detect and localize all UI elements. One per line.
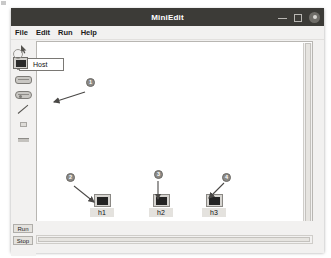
scrollbar-thumb[interactable] bbox=[305, 43, 311, 239]
node-h1[interactable]: h1 bbox=[90, 194, 114, 217]
annotation-badge-3: 3 bbox=[154, 170, 163, 179]
scrollbar-thumb[interactable] bbox=[38, 237, 310, 242]
switch-tool[interactable] bbox=[13, 73, 34, 86]
node-label: h1 bbox=[90, 208, 114, 217]
node-label: h3 bbox=[202, 208, 226, 217]
menu-item-edit[interactable]: Edit bbox=[35, 26, 51, 39]
host-monitor-icon bbox=[206, 194, 223, 207]
annotation-badge-2: 2 bbox=[66, 173, 75, 182]
node-label: h2 bbox=[149, 208, 173, 217]
node-h3[interactable]: h3 bbox=[202, 194, 226, 217]
legacy-router-tool[interactable] bbox=[13, 118, 34, 131]
window-title: MiniEdit bbox=[151, 13, 184, 22]
menu-item-run[interactable]: Run bbox=[57, 26, 74, 39]
host-monitor-icon bbox=[13, 57, 28, 69]
window-titlebar[interactable]: MiniEdit bbox=[11, 8, 324, 26]
node-h2[interactable]: h2 bbox=[149, 194, 173, 217]
menubar: File Edit Run Help bbox=[11, 26, 324, 40]
switch-pill-icon bbox=[15, 76, 32, 84]
host-monitor-icon bbox=[94, 194, 111, 207]
bottom-bar: Run Stop bbox=[11, 221, 324, 252]
net-link-tool[interactable] bbox=[13, 133, 34, 146]
host-monitor-icon bbox=[153, 194, 170, 207]
controller-tool[interactable] bbox=[13, 88, 34, 101]
stop-button[interactable]: Stop bbox=[13, 236, 33, 245]
bar-icon bbox=[18, 138, 29, 142]
run-button[interactable]: Run bbox=[13, 224, 33, 233]
controller-pill-icon bbox=[15, 91, 32, 99]
close-icon[interactable] bbox=[309, 12, 320, 23]
topology-canvas[interactable]: h1 h2 h3 bbox=[36, 41, 313, 239]
link-line-icon bbox=[17, 105, 30, 115]
maximize-icon[interactable] bbox=[294, 14, 302, 22]
window-controls bbox=[278, 8, 320, 26]
canvas-vertical-scrollbar[interactable] bbox=[303, 43, 312, 239]
host-tooltip: Host bbox=[19, 58, 64, 71]
link-tool[interactable] bbox=[13, 103, 34, 116]
desktop-background: MiniEdit File Edit Run Help bbox=[0, 0, 331, 258]
capture-artifact bbox=[1, 1, 6, 5]
canvas-horizontal-scrollbar[interactable] bbox=[36, 235, 313, 244]
mouse-cursor-indicator bbox=[13, 49, 23, 59]
annotation-badge-1: 1 bbox=[86, 78, 95, 87]
annotation-badge-4: 4 bbox=[222, 173, 231, 182]
minimize-icon[interactable] bbox=[278, 13, 287, 22]
menu-item-help[interactable]: Help bbox=[80, 26, 98, 39]
menu-item-file[interactable]: File bbox=[14, 26, 29, 39]
miniedit-window: MiniEdit File Edit Run Help bbox=[11, 8, 324, 252]
small-box-icon bbox=[20, 122, 27, 127]
